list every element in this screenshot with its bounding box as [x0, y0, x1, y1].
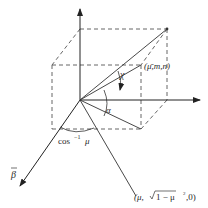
arccos-label: cos [58, 136, 70, 146]
arccos-arg: μ [84, 136, 90, 146]
svg-text:,0): ,0) [186, 192, 196, 202]
vectors [80, 29, 167, 196]
beta-axis [20, 100, 80, 186]
direction-cosine-diagram: (μ̄,m,n) χ α cos −1 μ β (μ, 1 − μ 2 ,0) [0, 0, 208, 208]
corner-point [166, 28, 169, 31]
svg-text:1 − μ: 1 − μ [156, 192, 175, 202]
arccos-exponent: −1 [74, 134, 80, 140]
axes [20, 9, 200, 186]
alpha-label: α [106, 105, 111, 115]
beta-label: β [10, 169, 16, 180]
angle-arcs [60, 71, 121, 132]
point-bottom-label: (μ, 1 − μ 2 ,0) [134, 191, 196, 202]
point-top-label: (μ̄,m,n) [144, 61, 170, 71]
chi-label: χ [119, 69, 125, 80]
vector-to-point [80, 65, 141, 100]
svg-text:(μ,: (μ, [134, 192, 144, 202]
